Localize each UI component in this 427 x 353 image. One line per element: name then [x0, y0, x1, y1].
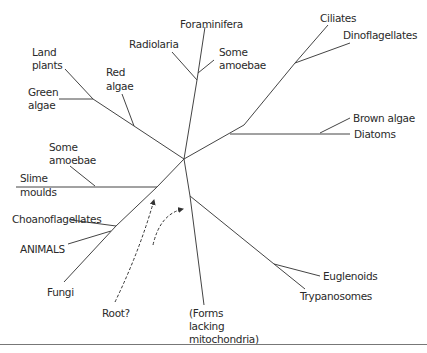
label-green-algae-2: algae [28, 99, 55, 112]
label-some-amoebae-top-1: Some [219, 46, 248, 59]
label-choanoflagellates: Choanoflagellates [12, 213, 101, 226]
label-forms-lacking-1: (Forms [189, 307, 223, 320]
label-forms-lacking-2: lacking [189, 320, 224, 333]
label-land-plants-1: Land [32, 46, 56, 59]
branch-foraminifera [184, 80, 197, 159]
label-some-amoebae-left-1: Some [49, 141, 78, 154]
branch-land-plants [65, 69, 93, 99]
branch-animals [68, 231, 111, 244]
branch-forms-lacking-mitochondria [184, 159, 190, 196]
label-ciliates: Ciliates [320, 12, 356, 25]
branch-plants [134, 126, 184, 159]
label-some-amoebae-top-2: amoebae [219, 59, 266, 72]
label-green-algae-1: Green [28, 86, 58, 99]
root-arrow-right [153, 209, 183, 245]
label-fungi: Fungi [47, 286, 74, 299]
root-arrow-left [115, 200, 154, 302]
branch-some-amoebae-left [70, 166, 95, 186]
branch-alveolates [184, 125, 244, 159]
label-radiolaria: Radiolaria [129, 38, 179, 51]
label-red-algae-1: Red [106, 66, 125, 79]
branch-brown-algae [320, 118, 350, 133]
label-red-algae-2: algae [106, 80, 133, 93]
label-root: Root? [102, 307, 130, 320]
label-some-amoebae-left-2: amoebae [49, 154, 96, 167]
branch-euglenozoa [190, 196, 274, 264]
label-brown-algae: Brown algae [353, 112, 415, 125]
label-foraminifera: Foraminifera [180, 18, 243, 31]
bottom-divider [0, 344, 427, 345]
label-euglenoids: Euglenoids [323, 270, 377, 283]
label-land-plants-2: plants [32, 59, 62, 72]
branch-fungi [64, 226, 116, 282]
branch-opisthokonts [157, 159, 184, 187]
label-trypanosomes: Trypanosomes [300, 290, 372, 303]
label-dinoflagellates: Dinoflagellates [343, 29, 417, 42]
branch-radiolaria [172, 52, 197, 80]
branch-red-algae [122, 94, 134, 126]
label-animals: ANIMALS [20, 243, 65, 256]
label-diatoms: Diatoms [354, 128, 396, 141]
label-slime-moulds-1: Slime [20, 172, 48, 185]
branch-some-amoebae-top [198, 60, 214, 73]
label-slime-moulds-2: moulds [20, 186, 57, 199]
